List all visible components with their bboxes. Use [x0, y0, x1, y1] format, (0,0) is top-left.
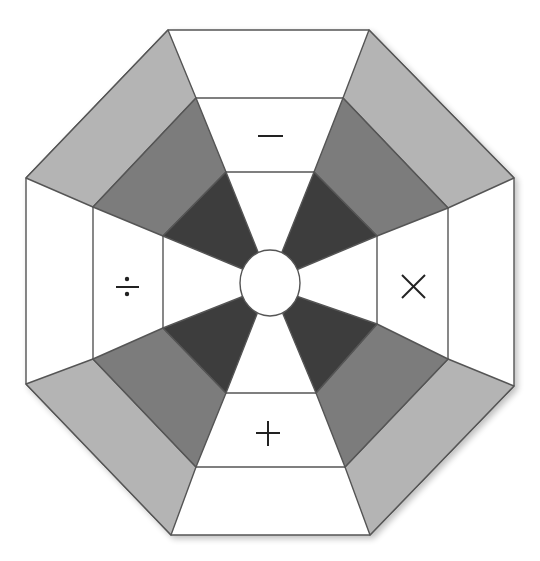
- center-circle: [240, 250, 300, 316]
- octagon-operator-diagram: − × + ÷: [0, 0, 540, 561]
